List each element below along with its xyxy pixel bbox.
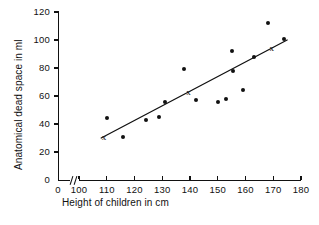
- data-point: [230, 49, 234, 53]
- x-axis-title: Height of children in cm: [62, 197, 169, 208]
- cross-marker: x: [270, 44, 275, 53]
- plot-area: xxx: [0, 0, 319, 225]
- data-point: [163, 100, 167, 104]
- regression-line: [0, 0, 319, 225]
- cross-marker: x: [186, 87, 191, 96]
- data-point: [224, 97, 228, 101]
- data-point: [282, 37, 286, 41]
- data-point: [266, 21, 270, 25]
- data-point: [194, 98, 198, 102]
- data-point: [231, 69, 235, 73]
- cross-marker: x: [102, 132, 107, 141]
- scatter-chart-figure: Anatomical dead space in ml 020406080100…: [0, 0, 319, 225]
- data-point: [252, 55, 256, 59]
- data-point: [144, 118, 148, 122]
- data-point: [216, 100, 220, 104]
